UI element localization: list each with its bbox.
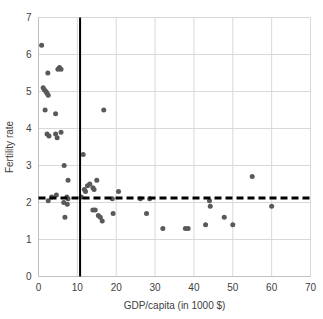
y-tick-label: 0 xyxy=(26,271,32,282)
data-point xyxy=(62,215,67,220)
x-tick-label: 20 xyxy=(111,282,123,293)
data-point xyxy=(208,204,213,209)
y-tick-labels: 01234567 xyxy=(26,12,32,282)
data-point xyxy=(186,226,191,231)
data-point xyxy=(81,152,86,157)
data-point xyxy=(144,211,149,216)
x-tick-label: 10 xyxy=(72,282,84,293)
x-tick-label: 30 xyxy=(150,282,162,293)
y-tick-label: 2 xyxy=(26,197,32,208)
data-point xyxy=(43,108,48,113)
chart-canvas: 01020304050607001234567GDP/capita (in 10… xyxy=(0,0,323,319)
data-point xyxy=(62,163,67,168)
y-tick-label: 1 xyxy=(26,234,32,245)
data-point xyxy=(250,174,255,179)
data-point xyxy=(222,215,227,220)
data-point xyxy=(66,178,71,183)
data-point xyxy=(59,67,64,72)
data-point xyxy=(269,204,274,209)
data-point xyxy=(55,135,60,140)
x-tick-label: 40 xyxy=(188,282,200,293)
data-point xyxy=(116,189,121,194)
x-tick-label: 0 xyxy=(36,282,42,293)
x-axis-title: GDP/capita (in 1000 $) xyxy=(124,300,226,311)
y-tick-label: 6 xyxy=(26,49,32,60)
data-point xyxy=(45,71,50,76)
x-tick-label: 70 xyxy=(305,282,317,293)
data-point xyxy=(65,202,70,207)
scatter-chart: 01020304050607001234567GDP/capita (in 10… xyxy=(0,0,323,319)
data-point xyxy=(230,222,235,227)
y-tick-label: 3 xyxy=(26,160,32,171)
data-point xyxy=(160,226,165,231)
x-tick-labels: 010203040506070 xyxy=(36,282,317,293)
data-point xyxy=(39,43,44,48)
y-tick-label: 5 xyxy=(26,86,32,97)
data-point xyxy=(93,207,98,212)
y-axis-title: Fertility rate xyxy=(4,120,15,173)
data-point xyxy=(203,222,208,227)
data-point xyxy=(100,219,105,224)
data-point xyxy=(53,111,58,116)
data-point xyxy=(59,130,64,135)
data-point xyxy=(94,178,99,183)
x-tick-label: 60 xyxy=(266,282,278,293)
data-point xyxy=(83,189,88,194)
data-point xyxy=(46,93,51,98)
x-tick-label: 50 xyxy=(227,282,239,293)
data-point xyxy=(101,108,106,113)
data-point xyxy=(92,187,97,192)
y-tick-label: 7 xyxy=(26,12,32,23)
data-point xyxy=(46,133,51,138)
data-point xyxy=(111,211,116,216)
y-tick-label: 4 xyxy=(26,123,32,134)
